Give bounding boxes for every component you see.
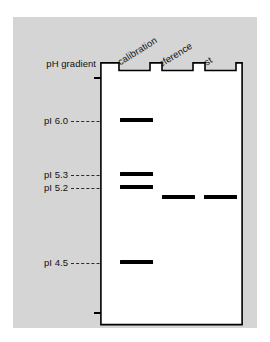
band-reference [162, 195, 195, 199]
axis-label-pi-5-2: pI 5.2 [18, 182, 68, 193]
band-pi-calibration-5-3 [120, 172, 153, 176]
band-pi-calibration-5-2 [120, 185, 153, 189]
axis-label-pi-4-5: pI 4.5 [18, 257, 68, 268]
gel-outline-icon [100, 62, 243, 326]
band-pi-calibration-4-5 [120, 260, 153, 264]
band-test [204, 195, 237, 199]
ph-gradient-label: pH gradient [26, 58, 96, 69]
gel-body [100, 62, 243, 326]
band-pi-calibration-6-0 [120, 118, 153, 122]
axis-label-pi-6-0: pI 6.0 [18, 115, 68, 126]
axis-label-pi-5-3: pI 5.3 [18, 169, 68, 180]
ief-gel-figure: pH gradient pI 6.0 pI 5.3 pI 5.2 pI 4.5 … [0, 0, 270, 342]
